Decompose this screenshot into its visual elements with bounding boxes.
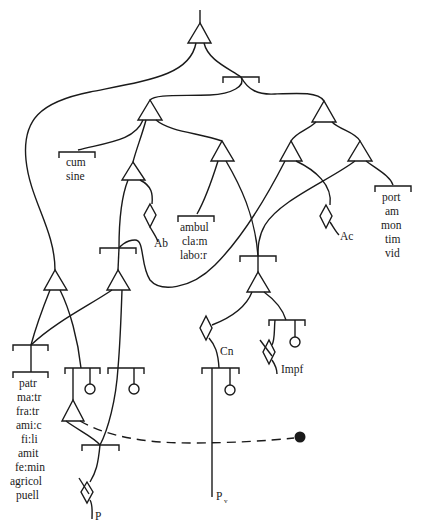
label-pv: P	[216, 490, 222, 502]
circle-icon	[225, 385, 235, 395]
label-amic: ami:c	[16, 419, 42, 431]
edge-I-Impf	[264, 292, 286, 320]
label-matr: ma:tr	[17, 391, 41, 403]
label-am: am	[385, 205, 399, 217]
edge-G-circle	[60, 290, 81, 368]
dashed-link	[80, 421, 294, 443]
label-fili: fi:li	[21, 433, 38, 445]
label-sine: sine	[66, 170, 85, 182]
label-agricol: agricol	[10, 475, 42, 488]
label-ab: Ab	[154, 237, 168, 249]
circle-icon	[290, 337, 300, 347]
triangle-icon	[348, 141, 372, 161]
edge-P	[90, 445, 100, 482]
edge-root-bracket	[204, 43, 241, 77]
edge-tri-bracket	[66, 421, 100, 445]
label-amit: amit	[18, 447, 39, 459]
edge-H-circle	[118, 290, 122, 368]
triangle-icon	[44, 270, 67, 290]
bracket-Cn	[202, 368, 239, 374]
bracket-circle-2	[108, 368, 144, 374]
label-clam: cla:m	[182, 235, 208, 247]
label-vid: vid	[385, 247, 400, 259]
label-tim: tim	[385, 233, 400, 245]
triangle-icon	[138, 100, 162, 120]
edge-root-left	[25, 43, 196, 270]
label-mon: mon	[381, 219, 402, 231]
label-pv-subscript: v	[224, 497, 228, 505]
label-patr: patr	[19, 377, 37, 390]
circle-icon	[129, 384, 139, 394]
label-ambul: ambul	[180, 221, 209, 233]
edge-D-F	[332, 122, 360, 141]
bracket-circle-1	[65, 368, 100, 374]
bracket-H	[100, 248, 136, 254]
edge-I-Cn	[212, 292, 252, 325]
label-puell: puell	[16, 489, 39, 502]
edge-Ac	[330, 222, 339, 235]
label-ac: Ac	[340, 230, 353, 242]
diamond-icon	[320, 205, 332, 228]
network-diagram: cum sine Ab ambul cla:m labo:r Ac port a…	[0, 0, 423, 531]
label-labor: labo:r	[180, 249, 207, 261]
edge-Cn-bracket	[209, 338, 219, 368]
edge-Impf	[272, 360, 277, 374]
edge-F-port	[366, 161, 393, 185]
edge-H-patr	[31, 290, 112, 345]
label-impf: Impf	[281, 363, 304, 376]
label-port: port	[382, 191, 401, 204]
diamond-icon	[144, 204, 156, 227]
label-p: P	[95, 510, 101, 522]
circle-icon	[85, 384, 95, 394]
triangle-icon	[247, 272, 270, 292]
diamond-icon	[200, 316, 212, 340]
edge-bracket-D	[241, 77, 324, 101]
triangle-icon	[122, 162, 145, 180]
triangle-icon	[107, 270, 130, 290]
label-cum: cum	[66, 156, 86, 168]
label-fratr: fra:tr	[16, 405, 39, 417]
edge-P-end	[90, 500, 92, 519]
edge-D-E	[291, 122, 316, 141]
triangle-icon	[188, 23, 211, 43]
edge-bracket-A	[150, 77, 242, 100]
edge-Impf-diamond	[272, 320, 275, 345]
label-cn: Cn	[220, 345, 234, 357]
edge-A-C	[156, 120, 222, 141]
edge-B-down	[119, 180, 128, 248]
edge-E-Ac	[296, 161, 330, 205]
triangle-icon	[280, 141, 302, 161]
edge-B-Ab	[140, 180, 152, 204]
label-femin: fe:min	[15, 461, 45, 473]
triangle-icon	[62, 400, 84, 421]
edge-C-down	[226, 161, 258, 256]
triangle-icon	[312, 101, 336, 122]
root-node	[188, 10, 211, 43]
filled-node-icon	[295, 432, 306, 443]
triangle-icon	[211, 141, 234, 161]
edge-A-cum	[78, 120, 143, 150]
edge-C-ambul	[197, 161, 218, 214]
